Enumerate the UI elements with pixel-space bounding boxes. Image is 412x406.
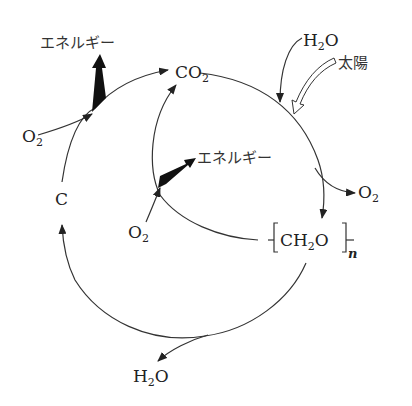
o2-label-left: O2 <box>22 126 43 149</box>
sun-label: 太陽 <box>338 54 368 72</box>
ch2o-subscript-n: n <box>348 246 357 261</box>
o2-label-inner: O2 <box>128 222 149 245</box>
sun-energy-hollow-arrow <box>292 58 336 114</box>
h2o-input-arrow <box>280 38 302 102</box>
outer-cycle-arc-ch2o-to-c <box>62 225 306 338</box>
energy-release-arrow-inner <box>158 158 196 188</box>
o2-label-right: O2 <box>358 182 379 205</box>
ch2o-label: CH2O <box>280 230 329 253</box>
h2o-label-top: H2O <box>303 30 339 53</box>
energy-label-inner: エネルギー <box>197 149 272 167</box>
co2-label: CO2 <box>175 62 209 85</box>
outer-cycle-arc-co2-to-ch2o <box>200 73 324 218</box>
h2o-label-bottom: H2O <box>133 366 169 389</box>
carbon-label: C <box>55 189 68 209</box>
o2-inner-input-arrow <box>146 188 160 222</box>
carbon-cycle-diagram: エネルギー エネルギー CO2 H2O 太陽 O2 O2 O2 C CH2O n… <box>0 0 412 406</box>
energy-label-top: エネルギー <box>40 34 115 52</box>
energy-release-arrow-top <box>92 54 106 112</box>
h2o-output-arrow <box>158 335 208 361</box>
